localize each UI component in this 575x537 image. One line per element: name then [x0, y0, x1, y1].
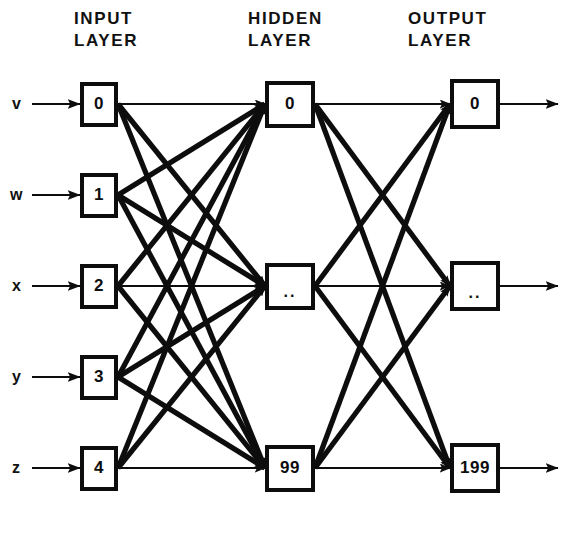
- hidden-node-0: 0: [265, 81, 315, 128]
- hidden-node-99: 99: [265, 445, 315, 492]
- input-signal-label-y: y: [12, 368, 21, 386]
- input-node-2: 2: [80, 264, 118, 309]
- input-signal-label-w: w: [10, 186, 22, 204]
- input-signal-label-x: x: [12, 277, 21, 295]
- header-input-layer: INPUT LAYER: [74, 8, 138, 52]
- output-node-0: 0: [450, 79, 500, 129]
- input-node-0: 0: [80, 82, 118, 127]
- output-node-ellipsis: ..: [450, 261, 500, 311]
- hidden-node-ellipsis: ..: [265, 263, 315, 310]
- input-signal-label-v: v: [12, 95, 21, 113]
- input-signal-label-z: z: [12, 459, 20, 477]
- header-output-layer: OUTPUT LAYER: [408, 8, 487, 52]
- output-node-199: 199: [450, 443, 500, 493]
- neural-network-diagram: INPUT LAYER HIDDEN LAYER OUTPUT LAYER v …: [0, 0, 575, 537]
- input-node-1: 1: [80, 173, 118, 218]
- input-node-3: 3: [80, 355, 118, 400]
- input-node-4: 4: [80, 446, 118, 491]
- header-hidden-layer: HIDDEN LAYER: [248, 8, 323, 52]
